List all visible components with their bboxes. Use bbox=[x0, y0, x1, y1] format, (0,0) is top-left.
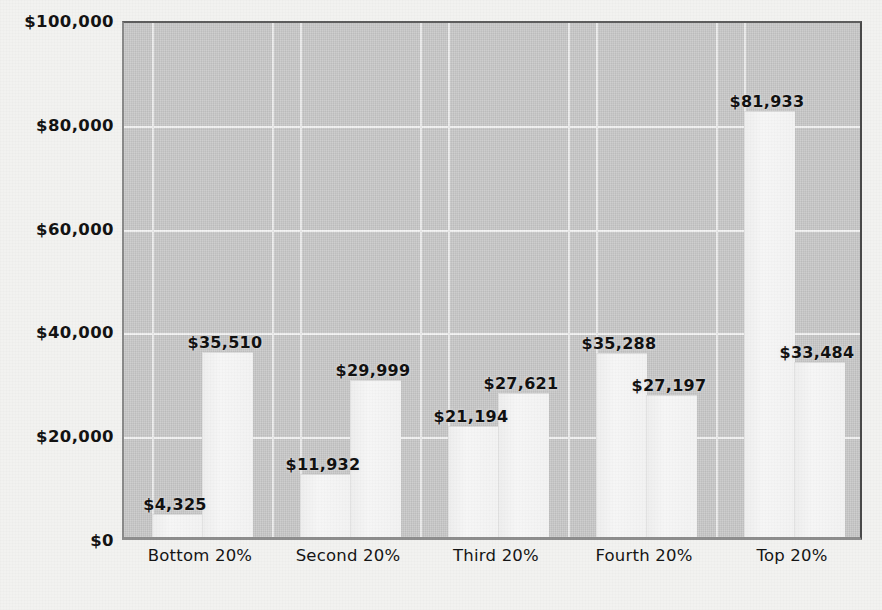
bar-chart: $0$20,000$40,000$60,000$80,000$100,000 B… bbox=[0, 0, 882, 610]
bar-value-label: $81,933 bbox=[730, 92, 805, 111]
y-axis: $0$20,000$40,000$60,000$80,000$100,000 bbox=[0, 0, 114, 610]
gridline-vertical bbox=[152, 23, 154, 537]
bar-value-label: $27,621 bbox=[484, 374, 559, 393]
bar bbox=[744, 111, 795, 537]
bar-value-label: $29,999 bbox=[336, 361, 411, 380]
bar bbox=[152, 514, 203, 537]
gridline-vertical bbox=[716, 23, 718, 537]
gridline-vertical bbox=[420, 23, 422, 537]
y-axis-tick-label: $0 bbox=[6, 531, 114, 550]
bar bbox=[794, 362, 845, 537]
bar bbox=[202, 352, 253, 537]
y-axis-tick-label: $40,000 bbox=[6, 323, 114, 342]
bar-value-label: $21,194 bbox=[434, 407, 509, 426]
y-axis-tick-label: $60,000 bbox=[6, 219, 114, 238]
bar bbox=[646, 395, 697, 537]
x-axis-category-label: Bottom 20% bbox=[148, 546, 252, 565]
x-axis: Bottom 20%Second 20%Third 20%Fourth 20%T… bbox=[122, 546, 862, 586]
bar-value-label: $27,197 bbox=[632, 376, 707, 395]
bar-value-label: $35,510 bbox=[188, 333, 263, 352]
bar-value-label: $35,288 bbox=[582, 334, 657, 353]
gridline-vertical bbox=[272, 23, 274, 537]
bar-value-label: $33,484 bbox=[780, 343, 855, 362]
bar bbox=[448, 426, 499, 537]
x-axis-category-label: Fourth 20% bbox=[595, 546, 692, 565]
x-axis-category-label: Third 20% bbox=[453, 546, 539, 565]
bar-value-label: $4,325 bbox=[143, 495, 207, 514]
bar-value-label: $11,932 bbox=[286, 455, 361, 474]
x-axis-category-label: Top 20% bbox=[756, 546, 827, 565]
x-axis-category-label: Second 20% bbox=[296, 546, 401, 565]
y-axis-tick-label: $100,000 bbox=[6, 12, 114, 31]
y-axis-tick-label: $80,000 bbox=[6, 115, 114, 134]
y-axis-tick-label: $20,000 bbox=[6, 427, 114, 446]
gridline-vertical bbox=[568, 23, 570, 537]
bar bbox=[300, 474, 351, 537]
